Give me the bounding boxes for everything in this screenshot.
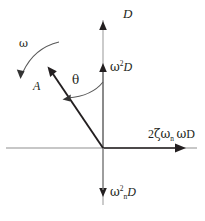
omega-squared-d-arrowhead [99,63,107,72]
omega-rotation-arrowhead [17,70,25,79]
label-theta: θ [72,74,79,86]
amplitude-vector-arrowhead [48,67,57,78]
horizontal-axis-arrowhead [175,144,186,153]
label-omega-rotation: ω [19,38,28,49]
d-axis-top-arrowhead [99,21,107,30]
phasor-diagram: D ω2D ω2nD 2ζωn ωD θ A ω [0,0,205,221]
diagram-canvas [0,0,205,221]
label-omega-n-squared-d: ω2nD [110,186,136,198]
label-damping-axis: 2ζωn ωD [148,128,195,140]
label-omega-squared-d: ω2D [110,61,132,73]
label-amplitude-vector: A [33,80,40,92]
label-d-axis: D [123,7,132,20]
omega-rotation-arc [23,42,59,72]
